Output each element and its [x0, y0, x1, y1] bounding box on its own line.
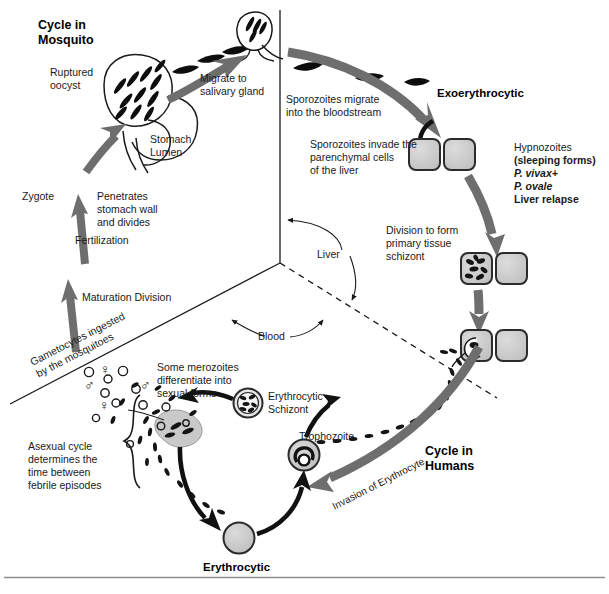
female-gametocyte-symbol: ♀: [100, 363, 111, 376]
arrow-fertilization: [71, 194, 88, 264]
label-zygote: Zygote: [22, 190, 54, 203]
label-exoerythrocytic: Exoerythrocytic: [437, 86, 524, 101]
label-sporozoites-migrate-into-bloodstream: Sporozoites migrate into the bloodstream: [286, 93, 381, 119]
label-ruptured-oocyst: Ruptured oocyst: [50, 66, 93, 92]
liver-cell-pair-invaded: [409, 139, 475, 170]
label-sporozoites-invade-parenchymal-cells: Sporozoites invade the parenchymal cells…: [310, 138, 417, 177]
liver-arc-lower: [350, 256, 356, 300]
liver-cell-pair-schizont: [461, 253, 527, 284]
erythrocyte-cell: [224, 523, 255, 554]
label-liver-compartment: Liver: [317, 248, 340, 261]
blood-arc-right: [290, 320, 323, 337]
arrow-schizont-to-release: [469, 290, 489, 334]
liver-arc-upper: [288, 220, 342, 250]
male-gametocyte-symbol: ♂: [84, 379, 95, 392]
female-gametocyte-symbol: ♀: [99, 399, 110, 412]
diagram-canvas: Cycle in Mosquito Cycle in Humans Ruptur…: [0, 0, 609, 594]
title-cycle-in-mosquito: Cycle in Mosquito: [38, 18, 94, 48]
arrow-erythrocyte-to-trophozoite: [257, 470, 311, 534]
label-penetrates-stomach-wall: Penetrates stomach wall and divides: [97, 190, 158, 229]
title-cycle-in-humans: Cycle in Humans: [425, 444, 474, 474]
label-hypnozoites-sleeping-forms: (sleeping forms): [514, 154, 596, 167]
salivary-gland-shape: [237, 12, 283, 62]
label-maturation-division: Maturation Division: [82, 291, 171, 304]
label-trophozoite: Trophozoite: [299, 430, 354, 443]
label-erythrocytic-schizont: Erythrocytic Schizont: [268, 390, 323, 416]
male-gametocyte-symbol: ♂: [140, 379, 151, 392]
label-division-to-form-primary-tissue-schizont: Division to form primary tissue schizont: [386, 224, 458, 263]
ruptured-erythrocyte: [155, 410, 202, 447]
label-hypnozoites-p-vivax: P. vivax+: [514, 167, 558, 180]
liver-cell-pair-releasing: [452, 330, 527, 367]
label-hypnozoites-liver-relapse: Liver relapse: [514, 193, 579, 206]
trophozoite-cell: [289, 440, 320, 471]
label-stomach-lumen: Stomach Lumen: [150, 133, 191, 159]
label-blood-compartment: Blood: [258, 330, 285, 343]
label-migrate-to-salivary-gland: Migrate to salivary gland: [200, 72, 264, 98]
label-hypnozoites-title: Hypnozoites: [514, 141, 572, 154]
label-some-merozoites-sexual-forms: Some merozoites differentiate into sexua…: [157, 361, 239, 400]
label-asexual-cycle-febrile-episodes: Asexual cycle determines the time betwee…: [28, 440, 102, 492]
arrow-merozoites-to-erythrocyte: [180, 447, 221, 531]
label-fertilization: Fertilization: [75, 234, 129, 247]
arrow-liver-division: [468, 176, 505, 257]
label-erythrocytic: Erythrocytic: [203, 560, 270, 575]
label-hypnozoites-p-ovale: P. ovale: [514, 180, 552, 193]
arrow-penetrates-stomach-wall: [86, 124, 126, 172]
free-merozoites-cloud: [110, 381, 226, 515]
